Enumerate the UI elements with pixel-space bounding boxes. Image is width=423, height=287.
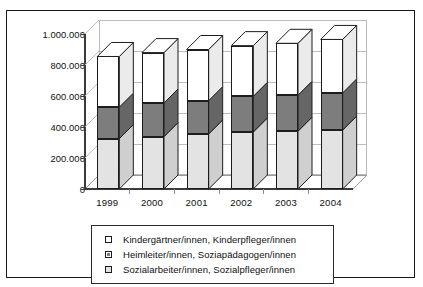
legend-open-square-icon — [105, 236, 112, 243]
legend-item[interactable]: Sozialarbeiter/innen, Sozialpfleger/inne… — [92, 262, 333, 277]
plot-area: 0200.000400.000600.000800.0001.000.000 1… — [7, 11, 416, 211]
bar-group — [7, 11, 416, 211]
legend-label: Heimleiter/innen, Soziapädagogen/innen — [123, 249, 296, 260]
legend-filled-square-icon — [105, 251, 112, 258]
x-tick-label: 2002 — [219, 197, 264, 208]
chart-legend: Kindergärtner/innen, Kinderpfleger/innen… — [91, 225, 334, 284]
legend-item[interactable]: Kindergärtner/innen, Kinderpfleger/innen — [92, 232, 333, 247]
x-tick-label: 2003 — [264, 197, 309, 208]
figure-frame: 0200.000400.000600.000800.0001.000.000 1… — [6, 10, 415, 278]
x-tick-label: 2000 — [130, 197, 175, 208]
x-tick-label: 2004 — [308, 197, 353, 208]
legend-label: Kindergärtner/innen, Kinderpfleger/innen — [123, 234, 296, 245]
legend-item[interactable]: Heimleiter/innen, Soziapädagogen/innen — [92, 247, 333, 262]
legend-open-square-icon — [105, 266, 112, 273]
legend-label: Sozialarbeiter/innen, Sozialpfleger/inne… — [123, 264, 295, 275]
x-tick-label: 1999 — [85, 197, 130, 208]
bar-top-face — [7, 11, 416, 211]
x-tick-label: 2001 — [174, 197, 219, 208]
chart-figure: 0200.000400.000600.000800.0001.000.000 1… — [0, 0, 423, 287]
clipped-caption-remnant — [22, 0, 402, 8]
